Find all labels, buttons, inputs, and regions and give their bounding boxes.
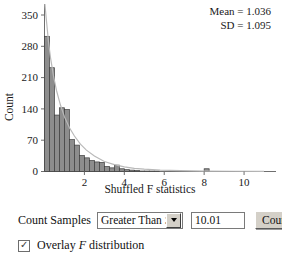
histogram-bar: [104, 166, 109, 171]
y-axis-ticks: 0 70 140 210 280 350: [22, 9, 45, 177]
x-tick-label-8: 8: [201, 176, 207, 188]
x-axis-title: Shuffled F statistics: [104, 183, 196, 195]
count-button[interactable]: Count: [255, 211, 282, 229]
histogram-bar: [144, 171, 149, 172]
histogram-bar: [89, 161, 94, 172]
x-tick-label-2: 2: [82, 176, 88, 188]
y-tick-label-0: 0: [33, 165, 39, 177]
histogram-bar: [84, 158, 89, 172]
histogram-bar: [119, 169, 124, 172]
histogram-bar: [99, 162, 104, 171]
histogram-chart-panel: 0 70 140 210 280 350 Count 246810 Shuffl…: [0, 0, 282, 198]
histogram-bars: [45, 36, 210, 171]
threshold-input[interactable]: [191, 212, 245, 229]
histogram-bar: [45, 36, 50, 171]
y-tick-label-350: 350: [22, 9, 39, 21]
y-tick-label-210: 210: [22, 71, 39, 83]
histogram-bar: [54, 115, 59, 171]
histogram-bar: [149, 171, 154, 172]
y-tick-label-70: 70: [27, 134, 39, 146]
x-tick-label-10: 10: [239, 176, 251, 188]
histogram-bar: [134, 171, 139, 172]
comparison-select[interactable]: Greater Than ≥: [97, 212, 183, 229]
histogram-bar: [129, 170, 134, 171]
histogram-bar: [49, 68, 54, 172]
histogram-bar: [154, 171, 159, 172]
chevron-down-icon[interactable]: [166, 213, 181, 228]
mean-annotation: Mean = 1.036: [210, 5, 272, 17]
sd-annotation: SD = 1.095: [220, 19, 271, 31]
histogram-bar: [74, 145, 79, 171]
histogram-bar: [109, 168, 114, 172]
count-samples-row: Count Samples Greater Than ≥ Count: [18, 210, 282, 230]
overlay-label-italic: F: [79, 238, 86, 252]
histogram-bar: [79, 156, 84, 172]
comparison-select-value: Greater Than ≥: [101, 213, 166, 228]
count-samples-label: Count Samples: [18, 213, 91, 228]
y-axis-title: Count: [3, 92, 15, 121]
overlay-checkbox[interactable]: ✓: [18, 240, 30, 252]
histogram-bar: [69, 140, 74, 172]
histogram-bar: [139, 171, 144, 172]
overlay-label-suffix: distribution: [86, 238, 144, 252]
histogram-bar: [59, 108, 64, 172]
checkmark-icon: ✓: [20, 240, 28, 250]
y-tick-label-140: 140: [22, 103, 39, 115]
overlay-checkbox-label: Overlay F distribution: [37, 238, 144, 253]
overlay-distribution-row[interactable]: ✓ Overlay F distribution: [18, 238, 144, 253]
histogram-bar: [124, 170, 129, 172]
histogram-plot: 0 70 140 210 280 350 Count 246810 Shuffl…: [0, 0, 282, 198]
overlay-label-prefix: Overlay: [37, 238, 79, 252]
histogram-bar: [94, 162, 99, 172]
y-tick-label-280: 280: [22, 40, 39, 52]
